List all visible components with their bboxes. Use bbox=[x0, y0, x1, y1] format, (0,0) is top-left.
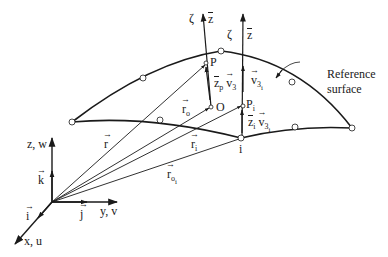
v3i-label: v3i bbox=[251, 74, 263, 92]
node bbox=[292, 124, 298, 130]
point-O-label: O bbox=[216, 101, 225, 113]
position-vectors bbox=[52, 65, 241, 202]
node bbox=[157, 117, 163, 123]
node bbox=[289, 79, 295, 85]
j-label: j bbox=[80, 208, 83, 220]
zp-v3-label: zp v3 bbox=[214, 77, 236, 92]
reference-surface-label-line1: Reference bbox=[327, 68, 376, 80]
r-oi-label: roi bbox=[167, 168, 177, 186]
zbar-left-label: z bbox=[208, 13, 213, 25]
annotation-leader bbox=[280, 62, 300, 72]
node-i-label: i bbox=[239, 143, 242, 155]
i-unit-vector bbox=[38, 202, 52, 218]
surface-bottom-edge bbox=[72, 120, 352, 138]
node bbox=[69, 119, 75, 125]
point-P bbox=[204, 61, 208, 65]
node bbox=[140, 75, 146, 81]
z-axis-label: z, w bbox=[27, 138, 47, 150]
node-i bbox=[238, 135, 244, 141]
annotation-arrow bbox=[276, 70, 282, 78]
node bbox=[218, 48, 224, 54]
zeta-right-label: ζ bbox=[227, 28, 232, 40]
reference-surface-label-line2: surface bbox=[327, 83, 362, 95]
global-axes bbox=[15, 138, 117, 244]
r-i-label: ri bbox=[191, 138, 197, 153]
r-label: r bbox=[104, 138, 108, 150]
vector-r-i bbox=[52, 106, 241, 202]
point-P-i-label: Pi bbox=[246, 98, 255, 113]
k-label: k bbox=[38, 174, 44, 186]
y-axis-label: y, v bbox=[100, 205, 117, 217]
vector-r bbox=[52, 65, 205, 202]
zi-v3i-label: zi v3i bbox=[248, 116, 271, 134]
point-P-label: P bbox=[210, 56, 217, 68]
zeta-left-label: ζ bbox=[189, 12, 194, 24]
node bbox=[349, 125, 355, 131]
zbar-right-label: z bbox=[247, 29, 252, 41]
r-o-label: ro bbox=[182, 103, 190, 118]
x-axis-label: x, u bbox=[24, 235, 42, 247]
point-P-i bbox=[241, 104, 245, 108]
vector-r-oi bbox=[52, 139, 239, 202]
shell-geometry-diagram: z, w y, v x, u k j i r ro ri roi P O Pi … bbox=[0, 0, 388, 257]
i-label: i bbox=[26, 210, 29, 222]
point-O bbox=[209, 105, 213, 109]
